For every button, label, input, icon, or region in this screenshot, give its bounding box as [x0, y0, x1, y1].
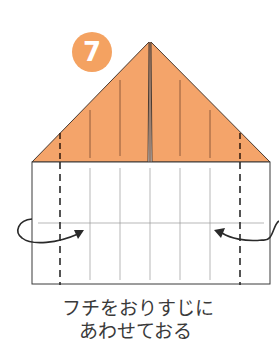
- instruction-line-2: あわせておる: [0, 320, 275, 342]
- step-number: 7: [83, 37, 101, 67]
- instruction-line-1: フチをおりすじに: [0, 297, 277, 319]
- right-triangle-flap: [151, 42, 270, 162]
- step-badge: 7: [72, 32, 112, 72]
